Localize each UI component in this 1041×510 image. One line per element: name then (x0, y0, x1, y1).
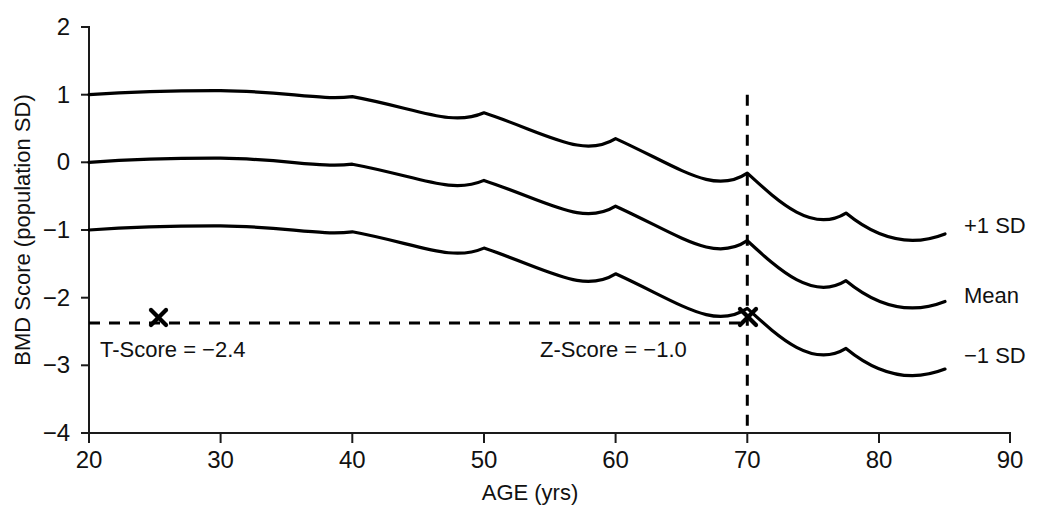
reference-guides (89, 95, 747, 433)
series-labels: +1 SD Mean −1 SD (964, 213, 1026, 368)
data-curves (89, 91, 945, 376)
z-score-annotation: Z-Score = −1.0 (540, 337, 687, 362)
x-axis-ticks (89, 433, 1010, 443)
chart-canvas: 2 1 0 −1 −2 −3 −4 20 30 40 50 60 70 (0, 0, 1041, 510)
x-axis-title: AGE (yrs) (482, 480, 579, 505)
x-tick-label-1: 30 (207, 446, 234, 473)
series-label-plus1sd: +1 SD (964, 213, 1026, 238)
x-tick-label-0: 20 (76, 446, 103, 473)
series-label-mean: Mean (964, 283, 1019, 308)
t-score-annotation: T-Score = −2.4 (100, 337, 246, 362)
y-tick-label-4: −2 (43, 284, 70, 311)
y-tick-label-6: −4 (43, 419, 70, 446)
x-tick-label-4: 60 (602, 446, 629, 473)
x-tick-label-7: 90 (997, 446, 1024, 473)
x-tick-label-5: 70 (734, 446, 761, 473)
y-tick-label-2: 0 (57, 148, 70, 175)
x-tick-label-2: 40 (339, 446, 366, 473)
annotation-texts: T-Score = −2.4 Z-Score = −1.0 (100, 337, 687, 362)
curve-mean (89, 158, 945, 308)
x-tick-label-3: 50 (471, 446, 498, 473)
y-axis-tick-labels: 2 1 0 −1 −2 −3 −4 (43, 13, 70, 446)
x-tick-label-6: 80 (866, 446, 893, 473)
y-tick-label-5: −3 (43, 351, 70, 378)
curve-plus1sd (89, 91, 945, 241)
bmd-age-chart-figure: 2 1 0 −1 −2 −3 −4 20 30 40 50 60 70 (0, 0, 1041, 510)
series-label-minus1sd: −1 SD (964, 343, 1026, 368)
y-tick-label-1: 1 (57, 81, 70, 108)
y-tick-label-3: −1 (43, 216, 70, 243)
y-tick-label-0: 2 (57, 13, 70, 40)
x-axis-tick-labels: 20 30 40 50 60 70 80 90 (76, 446, 1024, 473)
y-axis-title: BMD Score (population SD) (10, 94, 35, 365)
